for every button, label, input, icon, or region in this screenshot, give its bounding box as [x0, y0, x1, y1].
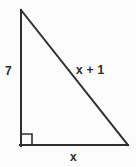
right-triangle-figure: 7 x + 1 x	[0, 0, 136, 167]
horizontal-leg-label: x	[70, 151, 77, 163]
hypotenuse-label: x + 1	[76, 64, 105, 76]
vertical-leg-label: 7	[5, 65, 12, 77]
triangle-graphic	[0, 0, 136, 167]
